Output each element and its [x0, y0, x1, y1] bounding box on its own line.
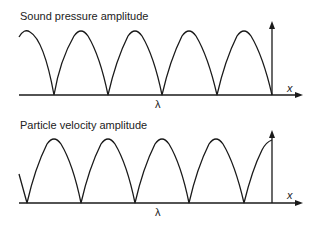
standing-wave-diagram: [0, 0, 314, 225]
pressure-x-axis-label: x: [287, 82, 293, 94]
velocity-wavelength-label: λ: [155, 206, 161, 218]
velocity-panel: [19, 130, 303, 206]
pressure-wavelength-label: λ: [155, 98, 161, 110]
velocity-panel-title: Particle velocity amplitude: [20, 119, 147, 131]
pressure-y-arrow-icon: [269, 21, 275, 29]
velocity-y-arrow-icon: [269, 130, 275, 138]
velocity-amplitude-curve: [19, 139, 272, 203]
velocity-x-axis-label: x: [287, 189, 293, 201]
pressure-panel: [19, 21, 303, 98]
pressure-amplitude-curve: [19, 31, 272, 95]
velocity-x-arrow-icon: [295, 200, 303, 206]
pressure-panel-title: Sound pressure amplitude: [20, 10, 148, 22]
pressure-x-arrow-icon: [295, 92, 303, 98]
